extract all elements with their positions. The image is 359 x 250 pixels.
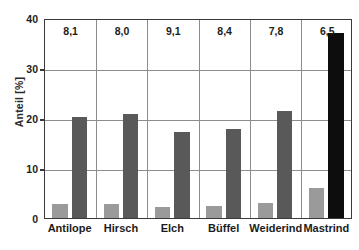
bar-dark-mastrind	[328, 33, 343, 218]
x-axis-category-labels: AntilopeHirschElchBüffelWeiderindMastrin…	[44, 222, 352, 244]
bar-group-weiderind: 7,8	[250, 20, 301, 218]
y-tick-label-0: 0	[14, 214, 38, 225]
value-label-hirsch: 8,0	[96, 26, 147, 37]
bar-dark-weiderind	[277, 111, 292, 218]
value-label-elch: 9,1	[148, 26, 199, 37]
x-label-büffel: Büffel	[198, 222, 249, 235]
bar-dark-büffel	[226, 129, 241, 219]
x-label-antilope: Antilope	[44, 222, 95, 235]
y-tick-label-30: 30	[14, 64, 38, 75]
bar-dark-hirsch	[123, 114, 138, 218]
bar-group-antilope: 8,1	[45, 20, 96, 218]
bar-group-hirsch: 8,0	[96, 20, 147, 218]
bar-group-büffel: 8,4	[199, 20, 250, 218]
plot-area: 8,18,09,18,47,86,5	[44, 19, 352, 219]
bar-light-elch	[155, 207, 170, 219]
bar-light-weiderind	[258, 203, 273, 218]
bar-dark-antilope	[72, 117, 87, 219]
value-label-mastrind: 6,5	[302, 26, 353, 37]
value-label-büffel: 8,4	[199, 26, 250, 37]
bar-light-mastrind	[309, 188, 324, 218]
x-label-mastrind: Mastrind	[301, 222, 352, 235]
y-axis-tick-labels: 403020100	[8, 0, 38, 250]
bar-light-hirsch	[104, 204, 119, 219]
x-label-elch: Elch	[147, 222, 198, 235]
y-tick-label-10: 10	[14, 164, 38, 175]
x-label-hirsch: Hirsch	[95, 222, 146, 235]
bar-group-elch: 9,1	[148, 20, 199, 218]
x-label-weiderind: Weiderind	[249, 222, 300, 235]
bar-dark-elch	[174, 132, 189, 218]
value-label-antilope: 8,1	[45, 26, 96, 37]
bar-light-büffel	[206, 206, 221, 218]
y-tick-label-40: 40	[14, 14, 38, 25]
bar-light-antilope	[52, 204, 67, 218]
bar-chart: Anteil [%] 403020100 8,18,09,18,47,86,5 …	[0, 0, 359, 250]
value-label-weiderind: 7,8	[250, 26, 301, 37]
bar-group-mastrind: 6,5	[302, 20, 353, 218]
y-tick-label-20: 20	[14, 114, 38, 125]
